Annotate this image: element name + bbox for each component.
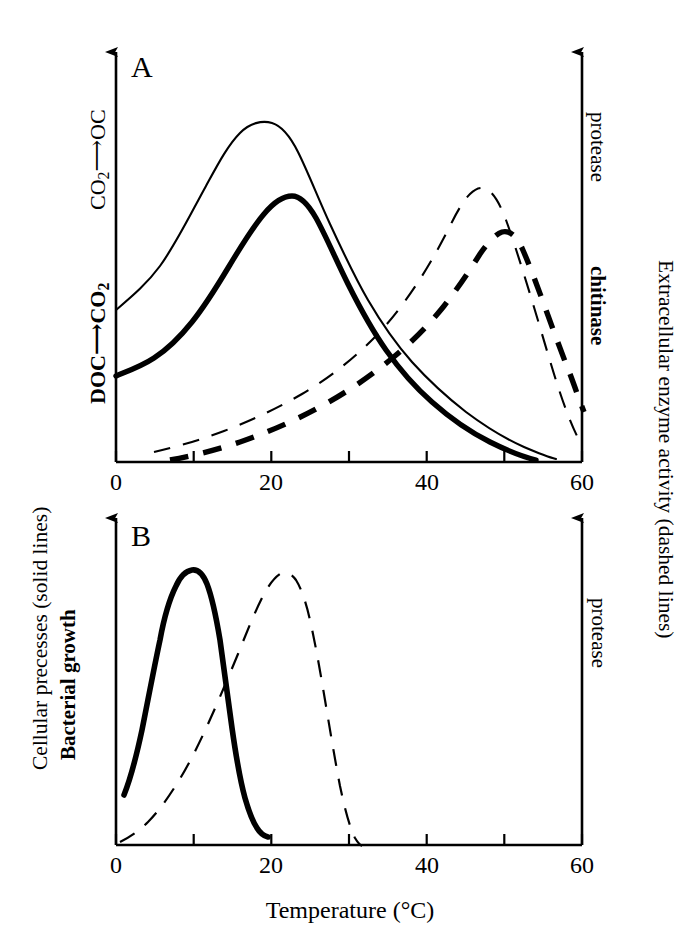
curve-label-co2-to-oc: CO2⟶OC: [87, 109, 112, 210]
co2-subscript: 2: [95, 172, 112, 180]
right-arrow-icon: ⟶: [86, 140, 108, 172]
x-axis-title: Temperature (°C): [220, 898, 480, 922]
panel-b-xtick-40: 40: [407, 853, 447, 877]
curve-co2-to-oc: [116, 122, 556, 459]
panel-a-xtick-40: 40: [407, 470, 447, 494]
panel-a-xtick-0: 0: [96, 470, 136, 494]
curve-label-bacterial-growth: Bacterial growth: [58, 609, 79, 760]
panel-a-xtick-60: 60: [562, 470, 602, 494]
co2-tail: CO: [85, 291, 110, 324]
curve-label-doc-to-co2: DOC⟶CO2: [87, 283, 112, 404]
oc-tail: OC: [85, 109, 110, 140]
right-arrow-icon: ⟶: [86, 324, 108, 356]
left-axis-title: Cellular precesses (solid lines): [30, 507, 52, 770]
curve-protease-panel-b: [120, 573, 362, 846]
panel-b-x-ticks: [116, 834, 582, 845]
panel-a-letter: A: [131, 52, 153, 82]
panel-b-axes: [116, 518, 582, 845]
doc-head: DOC: [85, 355, 110, 404]
right-axis-title: Extracellular enzyme activity (dashed li…: [655, 260, 677, 638]
figure-root: A B Cellular precesses (solid lines) Ext…: [0, 0, 689, 942]
co2-subscript: 2: [95, 283, 112, 291]
panel-b-xtick-20: 20: [251, 853, 291, 877]
curve-label-protease-panel-b: protease: [588, 598, 609, 668]
curve-label-chitinase-panel-a: chitinase: [587, 266, 608, 345]
co2-head: CO: [85, 179, 110, 210]
panel-b-xtick-60: 60: [562, 853, 602, 877]
panel-a-xtick-20: 20: [251, 470, 291, 494]
panel-b-letter: B: [131, 521, 151, 551]
curve-label-protease-panel-a: protease: [587, 112, 608, 182]
panel-a-axes: [116, 52, 582, 462]
curve-bacterial-growth: [124, 570, 268, 837]
panel-b-xtick-0: 0: [96, 853, 136, 877]
